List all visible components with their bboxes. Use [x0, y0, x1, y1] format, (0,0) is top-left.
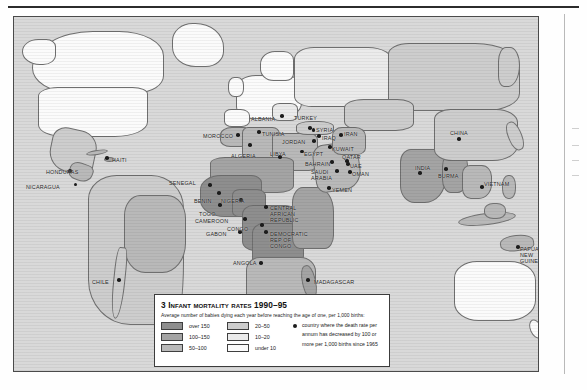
map-legend: 3 Infant mortality rates 1990–95 Average… — [154, 294, 390, 367]
legend-label-20-50: 20–50 — [255, 323, 270, 329]
swatch-100-150 — [161, 333, 183, 341]
legend-label-100-150: 100–150 — [189, 334, 210, 340]
legend-title-text: Infant mortality rates 1990–95 — [168, 300, 287, 310]
legend-label-over-150: over 150 — [189, 323, 210, 329]
legend-title: 3 Infant mortality rates 1990–95 — [161, 300, 383, 310]
legend-key-under-10: under 10 — [227, 344, 291, 352]
country-label: IRAN — [344, 131, 358, 137]
margin-text-tick — [572, 175, 579, 176]
country-label: INDIA — [415, 165, 430, 171]
country-label: KUWAIT — [332, 146, 354, 152]
country-label: TURKEY — [294, 115, 317, 121]
landmass-british-isles — [228, 77, 244, 97]
legend-column-right: country where the death rate per annum h… — [293, 322, 378, 347]
country-marker-dot[interactable] — [117, 278, 121, 282]
country-label: BURMA — [438, 173, 458, 179]
country-label: MOROCCO — [203, 133, 233, 139]
country-marker-dot[interactable] — [257, 130, 261, 134]
country-label: BAHRAIN — [305, 161, 330, 167]
country-label: ANGOLA — [233, 260, 257, 266]
country-label: TOGO — [199, 211, 216, 217]
country-marker-dot[interactable] — [339, 133, 343, 137]
legend-label-50-100: 50–100 — [189, 345, 207, 351]
country-marker-dot[interactable] — [105, 156, 109, 160]
margin-text-tick — [572, 160, 579, 161]
country-marker-dot[interactable] — [418, 171, 422, 175]
country-marker-dot[interactable] — [264, 205, 268, 209]
country-label: NIGERIA — [221, 198, 245, 204]
legend-column-middle: 20–50 10–20 under 10 — [227, 322, 291, 352]
country-label: PAPUANEWGUINEA — [520, 246, 539, 264]
country-marker-dot[interactable] — [444, 167, 448, 171]
country-label: MADAGASCAR — [314, 279, 354, 285]
landmass-philippines — [502, 175, 516, 199]
country-label: ALGERIA — [231, 153, 256, 159]
legend-key-100-150: 100–150 — [161, 333, 227, 341]
country-label: TUNISIA — [262, 131, 285, 137]
world-map[interactable]: NICARAGUAHONDURASHAITICHILEMOROCCOALGERI… — [13, 16, 539, 372]
swatch-10-20 — [227, 333, 249, 341]
country-marker-dot[interactable] — [217, 191, 221, 195]
country-marker-dot[interactable] — [280, 114, 284, 118]
atlas-page: NICARAGUAHONDURASHAITICHILEMOROCCOALGERI… — [0, 0, 587, 390]
country-label: SAUDIARABIA — [311, 169, 345, 181]
country-label: UAE — [350, 163, 362, 169]
landmass-china — [434, 109, 518, 161]
swatch-20-50 — [227, 322, 249, 330]
swatch-over-150 — [161, 322, 183, 330]
country-marker-dot[interactable] — [317, 134, 321, 138]
country-label: SYRIA — [316, 127, 333, 133]
country-label: GABON — [206, 231, 226, 237]
column-rule — [564, 14, 565, 374]
country-marker-dot[interactable] — [327, 186, 331, 190]
landmass-australia — [454, 261, 536, 321]
country-label: CENTRAL AFRICANREPUBLIC — [270, 205, 304, 223]
legend-subtitle: Average number of babies dying each year… — [161, 313, 383, 318]
legend-dot-note-line-2: annum has decreased by 100 or — [302, 331, 378, 337]
legend-figure-number: 3 — [161, 300, 166, 310]
country-label: CHINA — [450, 130, 468, 136]
country-marker-dot[interactable] — [312, 128, 316, 132]
country-marker-dot[interactable] — [208, 183, 212, 187]
country-marker-dot[interactable] — [259, 261, 263, 265]
country-label: EGYPT — [304, 151, 323, 157]
country-label: YEMEN — [332, 187, 352, 193]
country-label: HAITI — [112, 157, 127, 163]
country-marker-dot[interactable] — [312, 139, 316, 143]
landmass-scandinavia — [260, 51, 294, 81]
country-label: IRAQ — [322, 135, 336, 141]
page-top-rule — [8, 6, 579, 8]
legend-dot-marker-icon — [293, 324, 297, 328]
country-label: VIETNAM — [484, 181, 509, 187]
country-marker-dot[interactable] — [248, 143, 252, 147]
landmass-greenland — [172, 23, 224, 67]
country-marker-dot[interactable] — [306, 278, 310, 282]
country-label: JORDAN — [282, 139, 305, 145]
country-label: OMAN — [352, 171, 369, 177]
country-marker-dot[interactable] — [330, 160, 334, 164]
swatch-50-100 — [161, 344, 183, 352]
landmass-iberia — [224, 109, 250, 127]
landmass-brazil — [124, 195, 186, 273]
country-marker-dot[interactable] — [260, 223, 264, 227]
country-label: LIBYA — [270, 151, 286, 157]
margin-text-tick — [572, 145, 579, 146]
country-marker-dot[interactable] — [236, 133, 240, 137]
margin-text-tick — [572, 128, 579, 129]
legend-label-under-10: under 10 — [255, 345, 276, 351]
swatch-under-10 — [227, 344, 249, 352]
legend-dot-note-line-1: country where the death rate per — [302, 322, 378, 328]
country-label: CHILE — [92, 279, 109, 285]
landmass-usa — [38, 87, 148, 137]
country-marker-dot[interactable] — [243, 217, 247, 221]
legend-key-over-150: over 150 — [161, 322, 227, 330]
legend-key-10-20: 10–20 — [227, 333, 291, 341]
landmass-alaska — [22, 39, 56, 65]
legend-key-50-100: 50–100 — [161, 344, 227, 352]
legend-dot-note-line-3: more per 1,000 births since 1965 — [302, 341, 378, 347]
legend-dot-note: country where the death rate per annum h… — [302, 322, 378, 347]
country-marker-dot[interactable] — [457, 137, 461, 141]
country-label: SENEGAL — [169, 180, 196, 186]
country-label: CAMEROON — [195, 218, 228, 224]
country-marker-dot[interactable] — [264, 230, 268, 234]
